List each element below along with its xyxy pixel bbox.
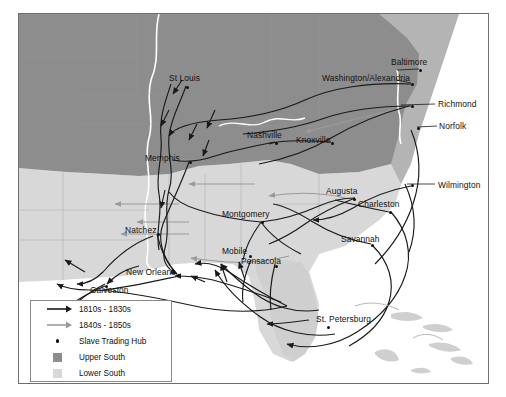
upper-south-swatch-icon xyxy=(53,353,62,362)
city-label: Baltimore xyxy=(391,58,427,66)
slave-trading-hub-icon xyxy=(56,339,59,342)
city-label: Galveston xyxy=(90,286,129,294)
slave-trading-hub-dot xyxy=(177,274,180,277)
city-label: Savannah xyxy=(341,235,380,243)
slave-trading-hub-dot xyxy=(331,142,334,145)
city-label: St. Petersburg xyxy=(316,315,371,323)
legend-item-hub: Slave Trading Hub xyxy=(31,333,171,349)
city-label: Wilmington xyxy=(438,181,480,189)
slave-trading-hub-dot xyxy=(261,221,264,224)
legend-arrow-dark-icon xyxy=(47,304,73,314)
city-label: St Louis xyxy=(169,74,200,82)
city-label: Nashville xyxy=(247,131,282,139)
city-label: Washington/Alexandria xyxy=(322,74,410,82)
slave-trading-hub-dot xyxy=(411,105,414,108)
city-label: Montgomery xyxy=(222,210,270,218)
legend-item-late: 1840s - 1850s xyxy=(31,317,171,333)
slave-trading-hub-dot xyxy=(189,161,192,164)
city-label: Augusta xyxy=(326,187,357,195)
slave-trading-hub-dot xyxy=(157,233,160,236)
slave-trading-hub-dot xyxy=(275,142,278,145)
slave-trading-hub-dot xyxy=(419,69,422,72)
city-label: Memphis xyxy=(145,154,180,162)
legend-arrow-light-icon xyxy=(47,320,73,330)
slave-trading-hub-dot xyxy=(411,184,414,187)
map-legend: 1810s - 1830s 1840s - 1850s Slave Tradin… xyxy=(30,300,172,382)
slave-trading-hub-dot xyxy=(353,198,356,201)
legend-item-lower-south: Lower South xyxy=(31,365,171,381)
region-upper-south xyxy=(19,14,419,176)
slave-trading-hub-dot xyxy=(371,244,374,247)
slave-trading-hub-dot xyxy=(411,83,414,86)
city-label: Richmond xyxy=(438,100,477,108)
map-figure: St LouisBaltimoreWashington/AlexandriaRi… xyxy=(0,0,506,397)
city-label: Knoxville xyxy=(296,136,330,144)
city-label: New Orleans xyxy=(126,268,176,276)
city-label: Charleston xyxy=(358,200,400,208)
lower-south-swatch-icon xyxy=(53,369,62,378)
city-label: Pensacola xyxy=(241,257,281,265)
city-label: Natchez xyxy=(125,226,156,234)
legend-label-hub: Slave Trading Hub xyxy=(79,337,146,346)
legend-item-upper-south: Upper South xyxy=(31,349,171,365)
legend-label-early: 1810s - 1830s xyxy=(79,305,131,314)
legend-item-early: 1810s - 1830s xyxy=(31,301,171,317)
slave-trading-hub-dot xyxy=(327,326,330,329)
slave-trading-hub-dot xyxy=(186,86,189,89)
city-label: Norfolk xyxy=(439,122,466,130)
legend-label-late: 1840s - 1850s xyxy=(79,321,131,330)
city-label: Mobile xyxy=(222,247,247,255)
legend-label-lower-south: Lower South xyxy=(79,369,125,378)
slave-trading-hub-dot xyxy=(389,211,392,214)
slave-trading-hub-dot xyxy=(417,127,420,130)
legend-label-upper-south: Upper South xyxy=(79,353,125,362)
